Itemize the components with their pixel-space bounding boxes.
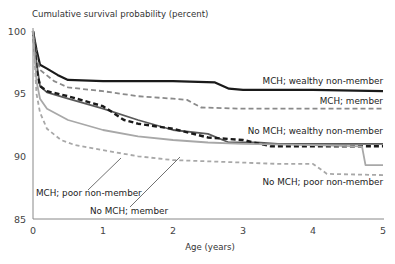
chart-canvas: Cumulative survival probability (percent… bbox=[0, 0, 395, 264]
x-tick-label: 5 bbox=[380, 225, 386, 236]
y-tick-label: 85 bbox=[14, 214, 26, 225]
y-axis-title: Cumulative survival probability (percent… bbox=[32, 9, 208, 19]
leader-line-mch-poor bbox=[88, 158, 121, 190]
label-nomch-wealthy: No MCH; wealthy non-member bbox=[248, 126, 384, 136]
x-tick-label: 1 bbox=[100, 225, 106, 236]
y-tick-labels: 859095100 bbox=[8, 26, 26, 225]
survival-chart: Cumulative survival probability (percent… bbox=[0, 0, 395, 264]
label-nomch-poor: No MCH; poor non-member bbox=[263, 177, 384, 187]
x-tick-label: 0 bbox=[30, 225, 36, 236]
label-mch-poor: MCH; poor non-member bbox=[36, 188, 142, 198]
y-tick-label: 100 bbox=[8, 26, 26, 37]
x-tick-label: 4 bbox=[310, 225, 316, 236]
x-tick-label: 3 bbox=[240, 225, 246, 236]
label-nomch-member: No MCH; member bbox=[90, 206, 168, 216]
leader-line-nomch-member-2 bbox=[130, 157, 180, 207]
x-axis-title: Age (years) bbox=[185, 242, 235, 252]
x-tick-label: 2 bbox=[170, 225, 176, 236]
label-mch-member: MCH; member bbox=[320, 96, 384, 106]
y-tick-label: 90 bbox=[14, 151, 26, 162]
x-tick-labels: 012345 bbox=[30, 225, 386, 236]
y-tick-label: 95 bbox=[14, 88, 26, 99]
label-mch-wealthy: MCH; wealthy non-member bbox=[263, 76, 384, 86]
